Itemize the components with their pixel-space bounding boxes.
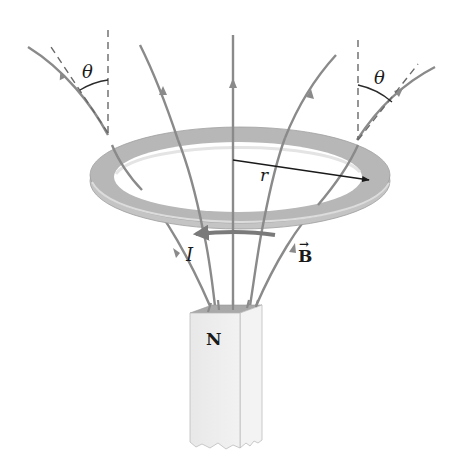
field-line-left-outer-upper xyxy=(28,47,108,135)
current-label: I xyxy=(185,244,194,265)
radius-label: r xyxy=(260,165,269,185)
theta-label-right: θ xyxy=(374,67,385,88)
field-line-right-outer-upper xyxy=(357,67,435,140)
magnet-ring-diagram: θ θ r I → B N xyxy=(0,0,460,465)
field-line-left-inner-upper xyxy=(140,45,178,140)
field-label: B xyxy=(298,246,312,266)
field-arrow-left-lower xyxy=(173,248,180,258)
current-direction-arrow xyxy=(196,232,275,235)
bar-magnet xyxy=(190,305,262,449)
dashed-tangent-left xyxy=(51,47,108,133)
magnet-side-face xyxy=(240,305,262,448)
theta-label-left: θ xyxy=(82,61,93,82)
angle-arcs xyxy=(80,80,392,102)
field-arrow-right-lower xyxy=(289,243,296,253)
conducting-ring xyxy=(90,127,390,229)
field-line-arrows-upper xyxy=(58,71,403,99)
field-arrow-center xyxy=(229,78,237,88)
dashed-tangent-right xyxy=(358,64,418,140)
magnet-pole-label: N xyxy=(206,329,222,349)
